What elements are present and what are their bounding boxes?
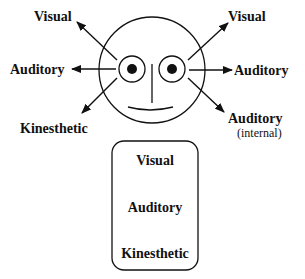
label-left-kinesthetic: Kinesthetic	[20, 121, 88, 136]
label-right-visual: Visual	[228, 9, 266, 24]
arrow-right-auditory-internal	[188, 78, 224, 112]
mouth-line	[128, 107, 173, 110]
arrow-left-visual	[77, 22, 117, 60]
arrow-left-kinesthetic	[82, 78, 117, 113]
label-left-visual: Visual	[34, 9, 72, 24]
box-label-auditory: Auditory	[128, 200, 182, 215]
arrow-right-visual	[188, 23, 228, 60]
label-left-auditory: Auditory	[10, 62, 64, 77]
label-right-auditory-internal: Auditory	[228, 111, 282, 126]
right-pupil	[167, 64, 177, 74]
label-internal-note: (internal)	[237, 126, 282, 140]
left-pupil	[127, 64, 137, 74]
label-right-auditory: Auditory	[234, 63, 288, 78]
box-label-visual: Visual	[136, 153, 174, 168]
eye-accessing-cues-diagram: Visual Auditory Kinesthetic Visual Audit…	[0, 0, 305, 279]
box-label-kinesthetic: Kinesthetic	[121, 246, 189, 261]
